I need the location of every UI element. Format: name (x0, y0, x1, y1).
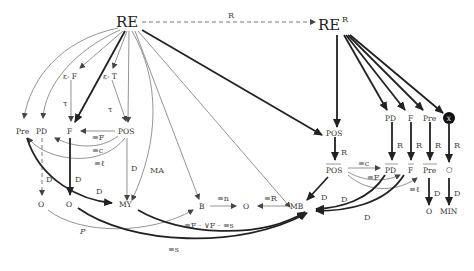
label-pre-my: D (96, 187, 102, 196)
label-pdr-pdbar: R (397, 141, 404, 150)
node-my: MY (119, 200, 133, 209)
label-f-o: D (75, 175, 81, 184)
label-o-b: P (79, 227, 86, 236)
label-fr-fbar: R (416, 141, 423, 150)
edge-pos-pd (55, 136, 118, 146)
label-fbar-mb: D (364, 213, 370, 222)
node-o2: O (66, 200, 72, 209)
node-o-small: ○ (446, 165, 453, 174)
node-x-r: X (447, 115, 452, 122)
label-b-o: ≡n (217, 194, 229, 203)
node-b: B (199, 202, 205, 211)
label-pos-pre: ≡ℓ (94, 159, 105, 168)
label-posbar-prebar: ≡ℓ (409, 185, 420, 194)
node-f: F (67, 127, 72, 136)
label-pdbar-mb: D (341, 195, 347, 204)
edge-o-b (48, 210, 193, 229)
edge-rer-x (350, 35, 443, 113)
node-re-r-sup: R (342, 15, 349, 24)
edge-re-mb (138, 31, 290, 207)
node-f-r: F (408, 114, 413, 123)
edge-re-b (135, 31, 199, 199)
node-pre: Pre (16, 127, 30, 136)
node-pos-r: POS (326, 129, 342, 138)
label-pos-f: ≡F (92, 133, 105, 142)
node-eps-t: ε- T (103, 72, 117, 81)
node-re-r: RE (318, 16, 340, 34)
label-my-mb: ≡F · ∨F · ≡s (184, 221, 234, 230)
node-pos-bar: POS (326, 166, 342, 175)
label-posbar-fbar: ≡F (367, 173, 380, 182)
edge-re-posbar (142, 30, 322, 135)
node-eps-f: ε- F (63, 72, 77, 81)
label-re-rer: R (228, 11, 235, 20)
node-f-bar: F (408, 166, 413, 175)
node-pre-r: Pre (423, 114, 437, 123)
label-pos-pd: ≡c (92, 146, 104, 155)
label-prebar-o: D (434, 189, 440, 198)
diagram-canvas: RE RE R ε- F ε- T Pre PD F POS O O MY B … (0, 0, 474, 271)
node-o3: O (243, 202, 249, 211)
label-mb-o: ≡R (264, 194, 278, 203)
label-re-my: MA (150, 166, 164, 175)
label-pd-o: D (46, 175, 52, 184)
node-pd-bar: PD (385, 166, 396, 175)
label-o-min: D (454, 189, 460, 198)
node-o1: O (38, 200, 44, 209)
edge-re-f (75, 31, 125, 122)
label-pos-my: D (131, 164, 137, 173)
node-mb: MB (290, 202, 304, 211)
node-re: RE (116, 13, 138, 31)
node-pos: POS (118, 127, 134, 136)
edge-epst-pos (112, 80, 126, 121)
edge-rer-f (346, 35, 405, 110)
label-xr-o: R (454, 141, 461, 150)
label-posbar-pdbar: ≡c (358, 159, 370, 168)
node-min: MIN (440, 207, 458, 216)
edge-rer-pd (344, 35, 387, 110)
label-posbar-mb: D (321, 193, 327, 202)
edge-fbar-mb (316, 175, 404, 211)
label-o-mb: ≡s (168, 245, 179, 254)
label-posr-posbar: R (341, 148, 348, 157)
label-prer-prebar: R (435, 141, 442, 150)
node-pd: PD (36, 127, 47, 136)
node-pre-bar: Pre (423, 166, 437, 175)
label-epst-pos: τ (108, 105, 113, 114)
edge-rer-pre (348, 35, 423, 110)
edge-re-pos (128, 31, 129, 122)
node-o-r: O (426, 207, 432, 216)
node-pd-r: PD (385, 114, 396, 123)
label-epsf-f: τ (63, 99, 68, 108)
